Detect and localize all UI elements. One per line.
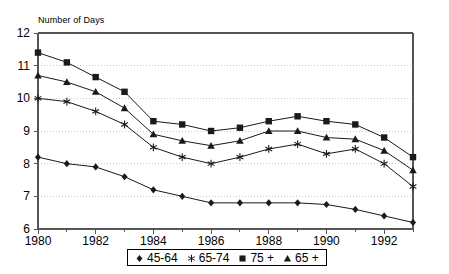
y-tick-label: 9	[8, 125, 30, 137]
plot-area	[0, 0, 449, 274]
y-tick-label: 8	[8, 158, 30, 170]
legend-item[interactable]: 65 +	[283, 252, 319, 264]
diamond-marker-icon	[135, 253, 144, 262]
x-tick-label: 1990	[306, 235, 346, 247]
y-tick-label: 11	[8, 60, 30, 72]
x-tick-label: 1992	[364, 235, 404, 247]
square-marker-icon	[238, 253, 247, 262]
x-tick-label: 1984	[133, 235, 173, 247]
legend-item-label: 65-74	[199, 252, 230, 264]
x-tick-label: 1988	[249, 235, 289, 247]
legend-item-label: 75 +	[250, 252, 274, 264]
line-chart: Number of Days 1211109876 19801982198419…	[0, 0, 449, 274]
series-65-	[34, 72, 417, 174]
chart-legend: 45-6465-7475 +65 +	[127, 249, 327, 266]
x-tick-label: 1980	[18, 235, 58, 247]
triangle-marker-icon	[283, 253, 292, 262]
series-45-64	[35, 154, 416, 227]
x-tick-label: 1982	[76, 235, 116, 247]
series-65-74	[35, 94, 417, 190]
legend-item-label: 45-64	[147, 252, 178, 264]
legend-item[interactable]: 65-74	[187, 252, 230, 264]
legend-item-label: 65 +	[295, 252, 319, 264]
y-tick-label: 10	[8, 92, 30, 104]
legend-item[interactable]: 75 +	[238, 252, 274, 264]
legend-item[interactable]: 45-64	[135, 252, 178, 264]
y-tick-label: 12	[8, 27, 30, 39]
x-tick-label: 1986	[191, 235, 231, 247]
star-marker-icon	[187, 253, 196, 262]
y-tick-label: 7	[8, 190, 30, 202]
